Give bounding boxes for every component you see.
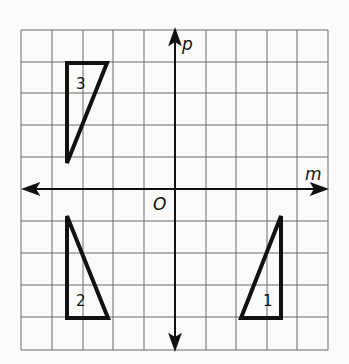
triangle-1: 1	[241, 216, 281, 318]
p-axis-up-arrow-icon	[170, 30, 180, 44]
p-axis-down-arrow-icon	[170, 335, 180, 349]
coordinate-grid-figure: m p O 3 2 1	[0, 0, 349, 364]
triangle-3-label: 3	[76, 75, 86, 93]
origin-label: O	[153, 194, 166, 214]
triangle-2-label: 2	[76, 292, 86, 310]
m-axis-label: m	[305, 164, 322, 184]
triangle-1-label: 1	[263, 292, 273, 310]
m-axis-right-arrow-icon	[312, 184, 326, 194]
triangle-2: 2	[67, 216, 108, 318]
m-axis-left-arrow-icon	[24, 184, 38, 194]
triangle-3: 3	[67, 63, 107, 163]
p-axis-label: p	[181, 34, 193, 54]
